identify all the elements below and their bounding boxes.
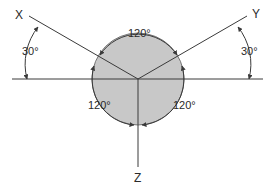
y-axis-label: Y [252, 7, 260, 21]
bottom-left-angle-label: 120° [88, 99, 111, 111]
isometric-axes-diagram: X Y Z 120° 120° 120° 30° 30° [0, 0, 275, 189]
left-incline-angle-label: 30° [22, 45, 39, 57]
bottom-right-angle-label: 120° [173, 99, 196, 111]
z-axis-label: Z [134, 171, 141, 185]
x-axis-label: X [15, 8, 23, 22]
top-angle-label: 120° [128, 27, 151, 39]
right-incline-angle-label: 30° [241, 45, 258, 57]
